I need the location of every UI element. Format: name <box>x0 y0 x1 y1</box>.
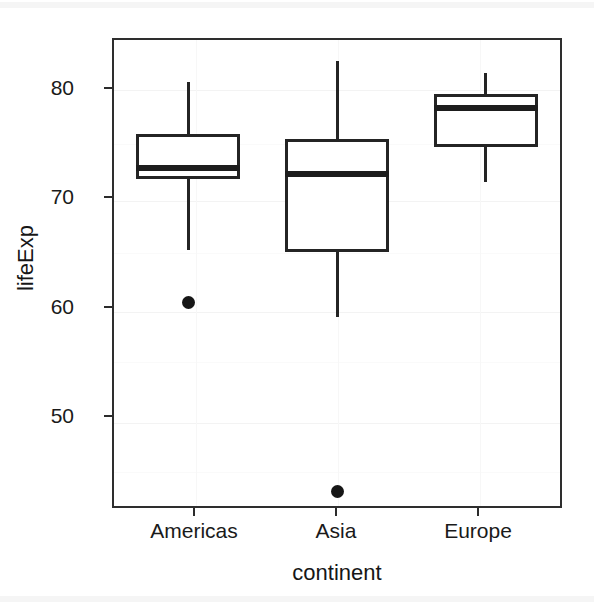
whisker-upper-asia <box>336 61 339 139</box>
box-americas <box>136 134 240 178</box>
x-tick-mark-americas <box>193 508 195 516</box>
x-tick-label-asia: Asia <box>266 519 406 543</box>
outlier-asia <box>331 485 344 498</box>
x-axis-title: continent <box>112 560 562 586</box>
whisker-lower-asia <box>336 252 339 317</box>
y-tick-mark-80 <box>104 87 112 89</box>
x-tick-label-europe: Europe <box>408 519 548 543</box>
gridline-y-50 <box>114 423 560 424</box>
whisker-lower-americas <box>187 179 190 250</box>
y-tick-mark-70 <box>104 196 112 198</box>
y-tick-mark-60 <box>104 306 112 308</box>
median-europe <box>434 105 538 111</box>
boxplot-figure: lifeExp 80 70 60 50 <box>0 0 594 602</box>
y-tick-label-60: 60 <box>20 295 74 319</box>
x-tick-label-americas: Americas <box>124 519 264 543</box>
box-europe <box>434 94 538 146</box>
y-tick-label-70: 70 <box>20 185 74 209</box>
y-tick-label-50: 50 <box>20 404 74 428</box>
plot-panel <box>112 38 562 508</box>
gridline-y-55 <box>114 362 560 363</box>
whisker-lower-europe <box>484 147 487 183</box>
whisker-upper-europe <box>484 73 487 94</box>
box-asia <box>285 139 389 252</box>
scan-artifact-top <box>0 2 594 8</box>
y-tick-mark-50 <box>104 415 112 417</box>
x-tick-mark-europe <box>477 508 479 516</box>
y-tick-label-80: 80 <box>20 76 74 100</box>
x-tick-mark-asia <box>335 508 337 516</box>
median-americas <box>136 165 240 171</box>
scan-artifact-bottom <box>0 596 594 602</box>
median-asia <box>285 171 389 177</box>
gridline-x-americas <box>196 40 197 506</box>
gridline-y-45 <box>114 472 560 473</box>
whisker-upper-americas <box>187 82 190 134</box>
outlier-americas <box>182 296 195 309</box>
